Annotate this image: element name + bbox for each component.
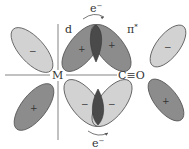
sign-minus: − (164, 42, 172, 52)
electron-arrow-upper: e− (83, 2, 104, 19)
sign-plus: + (162, 96, 170, 106)
lobe-right-lower: + (142, 73, 189, 127)
sign-plus: + (78, 44, 86, 54)
ligand-label: C≡O (118, 69, 145, 82)
metal-label: M (52, 69, 63, 82)
sign-minus: − (108, 99, 116, 109)
backbonding-diagram: − + + − + − − + M C≡O d π* e− (0, 0, 189, 149)
lobe-left-lower: + (7, 77, 61, 137)
lobe-right-upper: − (144, 19, 189, 73)
sign-minus: − (81, 99, 89, 109)
sign-minus: − (29, 46, 37, 56)
electron-label-upper: e− (90, 2, 103, 15)
electron-label-lower: e− (92, 137, 105, 149)
sign-plus: + (30, 103, 38, 113)
d-orbital-label: d (65, 23, 72, 36)
electron-arrow-lower: e− (88, 131, 108, 149)
pi-star-label: π* (127, 23, 138, 36)
sign-plus: + (108, 40, 116, 50)
